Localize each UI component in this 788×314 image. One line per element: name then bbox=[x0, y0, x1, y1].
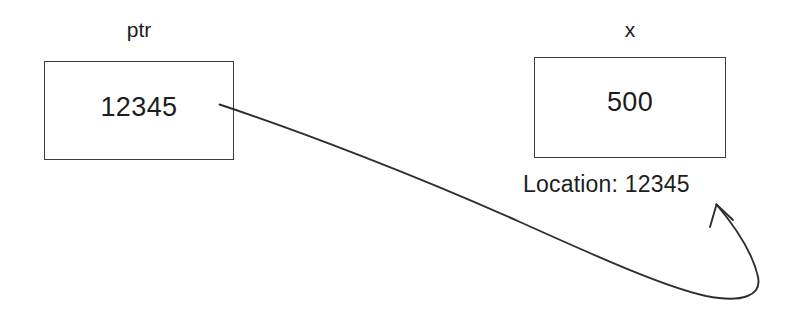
pointer-diagram-canvas: ptr 12345 x 500 Location: 12345 bbox=[0, 0, 788, 314]
x-box-value: 500 bbox=[535, 87, 725, 118]
x-box-label: x bbox=[534, 18, 726, 42]
x-location-label: Location: 12345 bbox=[523, 171, 690, 198]
x-variable-box: 500 bbox=[534, 57, 726, 158]
ptr-box-value: 12345 bbox=[45, 92, 233, 123]
ptr-variable-box: 12345 bbox=[44, 61, 234, 160]
ptr-box-label: ptr bbox=[44, 18, 234, 42]
arrowhead-barb-left bbox=[710, 205, 717, 228]
arrowhead-barb-right bbox=[717, 205, 734, 221]
